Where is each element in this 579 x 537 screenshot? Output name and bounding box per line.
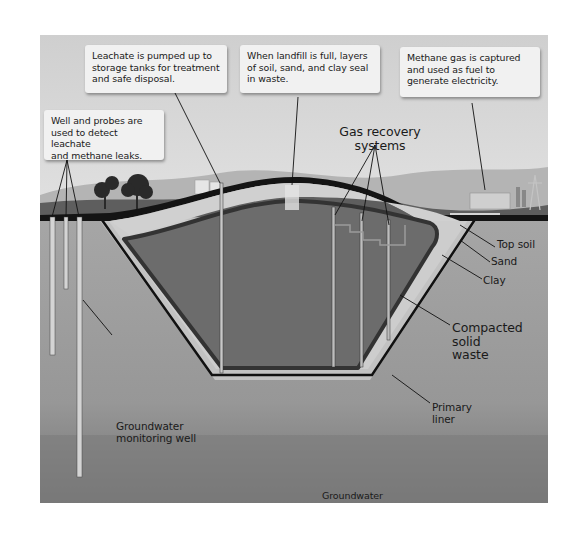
label-sand: Sand	[491, 256, 517, 268]
label-primary-liner: Primary liner	[432, 402, 472, 425]
label-compacted-waste: Compacted solid waste	[452, 321, 523, 362]
label-clay: Clay	[483, 275, 506, 287]
callout-probes: Well and probes are used to detect leach…	[44, 110, 164, 160]
callout-methane: Methane gas is captured and used as fuel…	[400, 47, 540, 97]
label-top-soil: Top soil	[497, 239, 535, 251]
label-gas-recovery: Gas recovery systems	[334, 125, 426, 152]
label-groundwater-well: Groundwater monitoring well	[116, 421, 196, 444]
label-groundwater: Groundwater	[322, 490, 383, 502]
callout-leachate: Leachate is pumped up to storage tanks f…	[85, 45, 227, 93]
leachate-pipe	[220, 183, 223, 373]
seal-layer-marker	[285, 185, 299, 210]
landfill-diagram: Leachate is pumped up to storage tanks f…	[40, 35, 548, 503]
callout-seal-layers: When landfill is full, layers of soil, s…	[240, 45, 380, 93]
groundwater-zone	[40, 435, 548, 503]
